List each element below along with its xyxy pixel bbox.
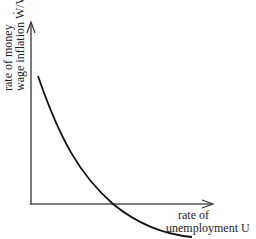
y-axis-label: rate of money wage inflation Ẇ/W bbox=[0, 0, 30, 100]
x-axis-label: rate of unemployment U bbox=[166, 209, 256, 235]
chart-canvas bbox=[0, 0, 256, 239]
phillips-curve-chart: rate of money wage inflation Ẇ/W rate of… bbox=[0, 0, 256, 239]
x-label-line2: unemployment U bbox=[166, 222, 256, 235]
y-label-line2: wage inflation Ẇ/W bbox=[14, 0, 26, 91]
